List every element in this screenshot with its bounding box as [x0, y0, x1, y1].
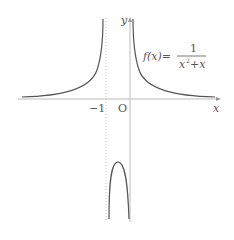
fraction-denominator-x: x [179, 58, 186, 71]
fraction-denominator-rest: +x [190, 58, 206, 71]
x-axis-arrow-icon [216, 97, 221, 101]
y-axis-label: y [120, 14, 128, 27]
fraction-numerator: 1 [190, 42, 197, 55]
tick-label-neg1: −1 [89, 102, 105, 115]
origin-label: O [118, 102, 127, 115]
curve-left-branch [22, 19, 103, 97]
y-axis-arrow-icon [128, 17, 132, 22]
function-graph: y x O −1 f(x)= 1 x 2 +x [0, 0, 234, 240]
function-label: f(x)= [142, 50, 171, 63]
curve-middle-branch [109, 162, 129, 219]
x-axis-label: x [213, 102, 220, 115]
